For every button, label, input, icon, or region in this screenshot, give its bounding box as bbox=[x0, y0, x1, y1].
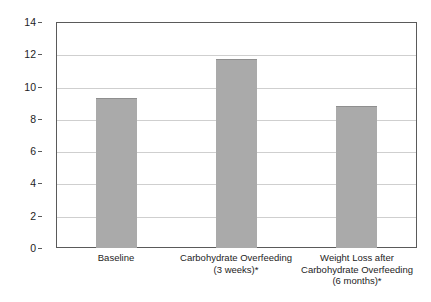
y-tick-label-12: 12 bbox=[24, 49, 36, 60]
x-axis-label-1: Baseline bbox=[50, 252, 182, 264]
y-tick-mark-2 bbox=[38, 216, 42, 217]
y-tick-label-2: 2 bbox=[30, 211, 36, 222]
y-tick-label-14: 14 bbox=[24, 17, 36, 28]
x-axis-label-1-line-1: Baseline bbox=[50, 252, 182, 264]
y-tick-label-4: 4 bbox=[30, 178, 36, 189]
y-tick-label-6: 6 bbox=[30, 146, 36, 157]
y-tick-mark-14 bbox=[38, 22, 42, 23]
y-tick-label-8: 8 bbox=[30, 114, 36, 125]
y-tick-mark-4 bbox=[38, 183, 42, 184]
y-tick-label-0: 0 bbox=[30, 243, 36, 254]
bars-layer bbox=[56, 22, 417, 248]
x-axis-label-3-line-2: Carbohydrate Overfeeding bbox=[291, 264, 423, 276]
x-axis-label-2-line-1: Carbohydrate Overfeeding bbox=[170, 252, 302, 264]
x-axis-label-2: Carbohydrate Overfeeding(3 weeks)* bbox=[170, 252, 302, 275]
y-tick-mark-0 bbox=[38, 248, 42, 249]
bar-2 bbox=[216, 59, 257, 248]
x-axis-label-3-line-1: Weight Loss after bbox=[291, 252, 423, 264]
x-axis-label-3-line-3: (6 months)* bbox=[291, 275, 423, 287]
y-tick-mark-12 bbox=[38, 54, 42, 55]
y-tick-mark-6 bbox=[38, 151, 42, 152]
x-axis-label-3: Weight Loss afterCarbohydrate Overfeedin… bbox=[291, 252, 423, 287]
y-tick-label-10: 10 bbox=[24, 82, 36, 93]
liver-fat-bar-chart: Liver Fat (%) 14121086420 BaselineCarboh… bbox=[0, 0, 431, 302]
y-tick-mark-8 bbox=[38, 119, 42, 120]
x-axis-label-2-line-2: (3 weeks)* bbox=[170, 264, 302, 276]
bar-3 bbox=[336, 106, 377, 248]
y-tick-mark-10 bbox=[38, 87, 42, 88]
x-axis-labels: BaselineCarbohydrate Overfeeding(3 weeks… bbox=[56, 252, 417, 302]
bar-1 bbox=[96, 98, 137, 248]
y-axis-ticks: 14121086420 bbox=[0, 0, 56, 302]
